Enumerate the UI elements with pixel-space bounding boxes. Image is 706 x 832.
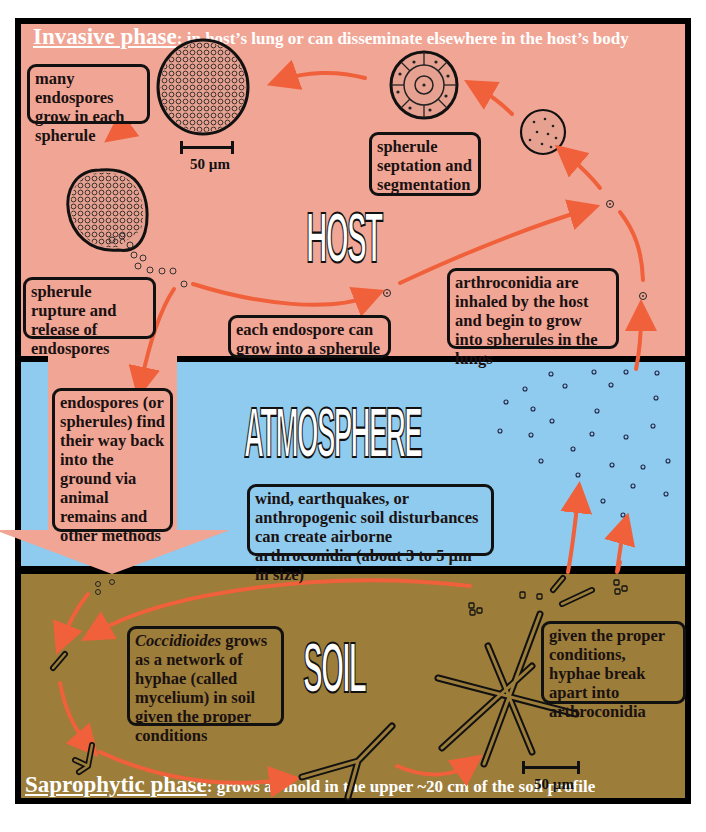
inhaled-box: arthroconidia are inhaled by the host an… [447, 268, 619, 349]
many-endospores-box: many endospores grow in each spherule [27, 64, 150, 124]
young-spherule-icon [521, 110, 565, 154]
rupture-box: spherule rupture and release of endospor… [23, 277, 156, 339]
rupturing-spherule-icon [68, 170, 187, 287]
segmented-spherule-icon [391, 52, 457, 118]
each-endospore-box: each endospore can grow into a spherule [228, 315, 391, 358]
wind-box: wind, earthquakes, or anthropogenic soil… [247, 484, 494, 556]
mature-spherule-icon [158, 40, 248, 134]
back-to-ground-box: endospores (or spherules) find their way… [52, 388, 173, 532]
scale-bar-line [522, 766, 580, 769]
break-apart-box: given the proper conditions, hyphae brea… [541, 621, 686, 704]
mycelium-box: Coccidioides grows as a network of hypha… [127, 626, 284, 726]
host-scale-bar: 50 µm [180, 140, 240, 180]
scale-bar-label: 50 µm [190, 156, 230, 173]
scale-bar-label: 50 µm [534, 776, 574, 793]
genus-name: Coccidioides [135, 631, 221, 650]
scale-bar-line [180, 146, 234, 149]
soil-scale-bar: 50 µm [522, 760, 582, 800]
septation-box: spherule septation and segmentation [369, 132, 481, 196]
